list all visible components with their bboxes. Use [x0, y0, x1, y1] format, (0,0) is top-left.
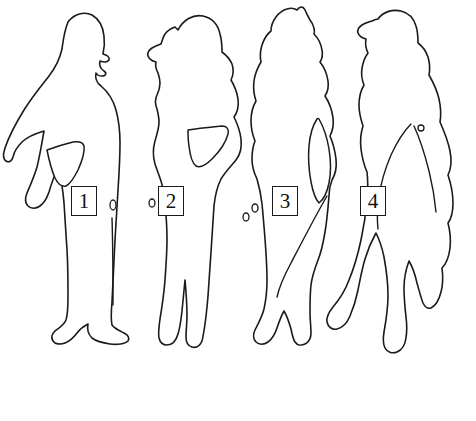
- figure-3-group: [251, 7, 336, 345]
- figure-2-detail-dot: [149, 199, 155, 207]
- figure-label-3: 3: [272, 186, 298, 216]
- figure-2-hip-dot: [243, 213, 249, 221]
- figure-label-2: 2: [158, 186, 184, 216]
- figure-label-1: 1: [71, 186, 97, 216]
- figure-4-outline: [327, 10, 453, 352]
- figure-2-group: [148, 16, 249, 348]
- figure-3-detail-dot: [252, 204, 258, 212]
- figure-4-detail-dot: [418, 125, 424, 131]
- figure-label-4: 4: [360, 186, 386, 216]
- figure-1-group: [4, 13, 129, 344]
- figure-1-detail-dot: [110, 200, 116, 210]
- figure-2-outline: [148, 16, 242, 348]
- drawing-canvas: 1 2 3 4: [0, 0, 476, 421]
- figure-4-group: [327, 10, 453, 352]
